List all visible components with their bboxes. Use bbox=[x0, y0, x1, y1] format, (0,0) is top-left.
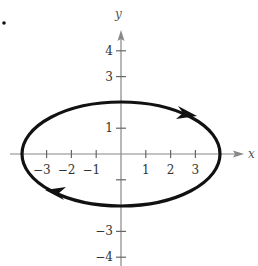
y-tick-label: 3 bbox=[105, 70, 113, 84]
y-tick-label: −3 bbox=[95, 224, 113, 238]
y-tick-label: −4 bbox=[95, 250, 113, 264]
x-tick-label: 1 bbox=[142, 163, 150, 177]
x-tick-label: 3 bbox=[192, 163, 200, 177]
y-tick-label: 4 bbox=[105, 44, 113, 58]
x-tick-label: −2 bbox=[58, 163, 76, 177]
x-tick-label: −3 bbox=[33, 163, 51, 177]
ellipse-graph: x y −3−2−1123 431−3−4 bbox=[0, 0, 258, 266]
y-axis: y bbox=[114, 7, 125, 266]
y-tick-label: 1 bbox=[105, 121, 113, 135]
problem-bullet-marker bbox=[2, 21, 6, 25]
x-tick-label: −1 bbox=[82, 163, 100, 177]
x-tick-label: 2 bbox=[167, 163, 175, 177]
y-axis-label: y bbox=[114, 7, 122, 21]
x-axis-label: x bbox=[248, 147, 255, 161]
